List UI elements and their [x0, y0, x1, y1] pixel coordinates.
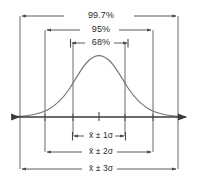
label-1-sigma: x̄ ± 1σ: [87, 131, 115, 140]
label-68-percent: 68%: [90, 38, 112, 47]
label-2-sigma: x̄ ± 2σ: [87, 147, 115, 156]
label-997-percent: 99.7%: [86, 11, 116, 20]
normal-curve: [14, 56, 184, 117]
label-95-percent: 95%: [90, 25, 112, 34]
label-3-sigma: x̄ ± 3σ: [87, 164, 115, 173]
normal-distribution-figure: 99.7% 95% 68% x̄ ± 1σ x̄ ± 2σ x̄ ± 3σ: [0, 0, 197, 184]
